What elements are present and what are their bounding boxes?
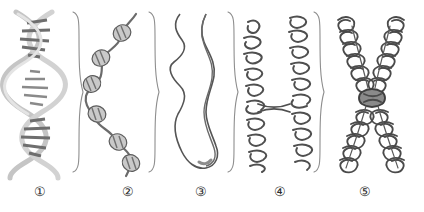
- panel-region-coiled-chromatid-arms[interactable]: [238, 8, 312, 180]
- panel-label-5: ⑤: [353, 185, 377, 198]
- panel-region-condensed-chromosome[interactable]: [326, 8, 422, 180]
- panel-region-dna-double-helix[interactable]: [0, 8, 72, 180]
- panel-label-4: ④: [268, 185, 292, 198]
- panel-label-3: ③: [189, 185, 213, 198]
- panel-region-chromatin-fiber-loop[interactable]: [158, 8, 226, 180]
- panel-label-2: ②: [116, 185, 140, 198]
- diagram-canvas: ① ② ③ ④ ⑤: [0, 0, 424, 212]
- panel-label-1: ①: [28, 185, 52, 198]
- panel-region-nucleosome-beads-on-string[interactable]: [80, 8, 148, 180]
